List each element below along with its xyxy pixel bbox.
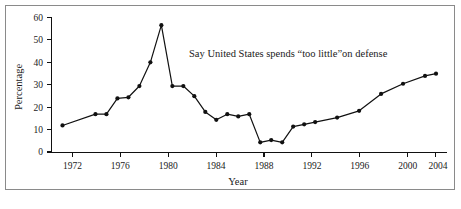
data-point [335,115,339,119]
data-point [357,109,361,113]
data-point [170,84,174,88]
x-axis-title: Year [228,176,248,187]
data-point [291,124,295,128]
series-annotation: Say United States spends “too little”on … [189,48,388,59]
data-point [93,112,97,116]
data-point [148,60,152,64]
data-point [192,94,196,98]
x-tick-label-1992: 1992 [302,161,321,171]
y-tick-label-20: 20 [34,103,44,113]
data-point [225,112,229,116]
data-point [214,118,218,122]
data-point [302,122,306,126]
x-tick-label-2004: 2004 [429,161,448,171]
data-point [137,84,141,88]
y-tick-label-30: 30 [34,80,44,90]
x-tick-label-1996: 1996 [350,161,369,171]
y-tick-label-10: 10 [34,125,44,135]
data-point [280,140,284,144]
data-point [181,84,185,88]
x-tick-label-1980: 1980 [159,161,178,171]
y-axis-title: Percentage [13,64,24,110]
data-point [60,123,64,127]
y-tick-label-40: 40 [34,58,44,68]
chart-figure: 60 50 40 30 20 10 0 Percentage 1972 1976… [0,0,461,209]
x-tick-marks [72,153,435,158]
data-point [379,92,383,96]
x-tick-label-1988: 1988 [255,161,274,171]
y-tick-marks [47,17,52,152]
y-tick-label-50: 50 [34,35,44,45]
x-tick-label-2000: 2000 [398,161,417,171]
data-point [236,114,240,118]
data-point [401,82,405,86]
x-tick-label-1976: 1976 [111,161,130,171]
series-line [62,25,436,142]
data-point [434,72,438,76]
data-point [126,95,130,99]
data-point [203,110,207,114]
data-point [423,74,427,78]
data-point [258,140,262,144]
y-tick-label-0: 0 [38,147,43,157]
data-point [104,112,108,116]
x-tick-label-1984: 1984 [207,161,226,171]
data-point [159,23,163,27]
data-point [247,112,251,116]
y-tick-label-60: 60 [34,13,44,23]
data-point [115,96,119,100]
data-point [269,138,273,142]
series-markers [60,23,438,144]
x-tick-label-1972: 1972 [63,161,82,171]
data-point [313,120,317,124]
line-chart: 60 50 40 30 20 10 0 Percentage 1972 1976… [0,0,461,209]
